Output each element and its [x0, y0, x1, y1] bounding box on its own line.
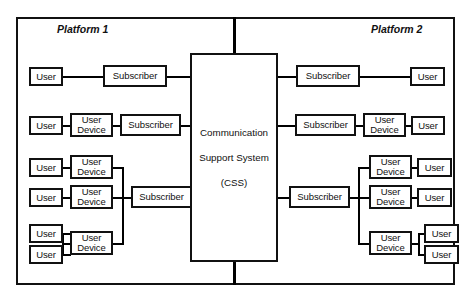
left-group-1-link-subscriber-css — [166, 76, 191, 78]
right-group-1-user-1[interactable]: User — [410, 67, 445, 86]
left-group-3-branch-3-user-device[interactable]: User Device — [70, 231, 113, 255]
right-group-1-subscriber[interactable]: Subscriber — [296, 65, 360, 87]
left-group-3-branch-3-user-2[interactable]: User — [29, 245, 63, 264]
css-line-1: Communication — [200, 127, 268, 138]
user-device-label-line-2: Device — [376, 243, 404, 253]
left-group-3-branch-3-user-1[interactable]: User — [29, 224, 63, 243]
left-group-2-subscriber[interactable]: Subscriber — [120, 114, 181, 136]
right-group-3-branch-2-user-device[interactable]: User Device — [369, 185, 412, 209]
right-group-1-link-css-subscriber — [277, 76, 297, 78]
right-group-3-distributor-bus — [358, 167, 360, 244]
right-group-3-branch-3-user-bus — [418, 233, 420, 255]
user-device-label-line-2: Device — [77, 243, 105, 253]
user-device-label-line-2: Device — [77, 197, 105, 207]
platform-divider-bottom — [233, 262, 236, 285]
css-line-3: (CSS) — [221, 177, 248, 188]
platform-divider-top — [233, 17, 236, 55]
right-group-3-branch-3-user-1[interactable]: User — [424, 224, 459, 243]
right-group-3-subscriber[interactable]: Subscriber — [289, 186, 350, 208]
left-group-3-branch-2-user-1[interactable]: User — [29, 188, 63, 207]
left-group-3-branch-2-user-device[interactable]: User Device — [70, 185, 113, 209]
right-group-1-link-subscriber-user — [359, 76, 411, 78]
left-group-1-user-1[interactable]: User — [29, 67, 63, 86]
right-group-3-branch-3-user-2[interactable]: User — [424, 245, 459, 264]
right-group-3-branch-1-user-device[interactable]: User Device — [369, 155, 412, 179]
left-group-3-branch-1-user-device[interactable]: User Device — [70, 155, 113, 179]
user-device-label-line-2: Device — [370, 125, 398, 135]
right-group-3-branch-2-user-1[interactable]: User — [417, 188, 452, 207]
right-group-3-branch-3-user-device[interactable]: User Device — [369, 231, 412, 255]
left-group-3-collector-bus — [122, 167, 124, 244]
left-group-3-branch-1-user-1[interactable]: User — [29, 158, 63, 177]
right-group-3-branch-1-user-1[interactable]: User — [417, 158, 452, 177]
left-group-2-user-1[interactable]: User — [29, 116, 63, 135]
left-group-1-link-user-subscriber — [62, 76, 104, 78]
user-device-label-line-2: Device — [77, 125, 105, 135]
platform-1-label: Platform 1 — [57, 23, 108, 35]
right-group-2-user-device[interactable]: User Device — [363, 113, 406, 137]
left-group-1-subscriber[interactable]: Subscriber — [103, 65, 167, 87]
right-group-2-link-css-subscriber — [277, 125, 296, 127]
communication-support-system-node[interactable]: Communication Support System (CSS) — [190, 53, 278, 262]
right-group-2-user-1[interactable]: User — [411, 116, 445, 135]
user-device-label-line-2: Device — [376, 167, 404, 177]
left-group-3-subscriber[interactable]: Subscriber — [131, 186, 192, 208]
user-device-label-line-2: Device — [77, 167, 105, 177]
right-group-2-subscriber[interactable]: Subscriber — [295, 114, 356, 136]
left-group-2-user-device[interactable]: User Device — [70, 113, 113, 137]
platform-2-label: Platform 2 — [371, 23, 422, 35]
user-device-label-line-2: Device — [376, 197, 404, 207]
css-line-2: Support System — [199, 152, 269, 163]
diagram-canvas: Platform 1 Platform 2 Communication Supp… — [0, 0, 471, 304]
